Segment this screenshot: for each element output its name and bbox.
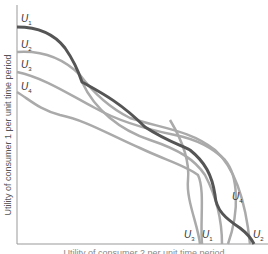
label-u4-right: U4 [232, 191, 243, 204]
label-subscript: 4 [239, 198, 242, 204]
curve-u2 [17, 52, 250, 244]
label-u2-bottom: U2 [253, 229, 264, 242]
y-axis-label: Utility of consumer 1 per unit time peri… [3, 20, 13, 250]
label-u1-left: U1 [21, 13, 32, 26]
label-subscript: 3 [28, 66, 31, 72]
label-subscript: 4 [28, 88, 31, 94]
label-u3-left: U3 [21, 59, 32, 72]
label-subscript: 3 [191, 236, 194, 242]
x-axis-label: Utility of consumer 2 per unit time peri… [20, 248, 268, 254]
utility-possibility-diagram [0, 0, 268, 254]
label-u3-bottom: U3 [184, 229, 195, 242]
label-u1-bottom: U1 [202, 229, 213, 242]
label-u2-left: U2 [21, 39, 32, 52]
curve-u3 [17, 72, 236, 244]
label-subscript: 2 [260, 236, 263, 242]
label-subscript: 2 [28, 46, 31, 52]
label-subscript: 1 [28, 20, 31, 26]
label-subscript: 1 [209, 236, 212, 242]
label-u4-left: U4 [21, 81, 32, 94]
